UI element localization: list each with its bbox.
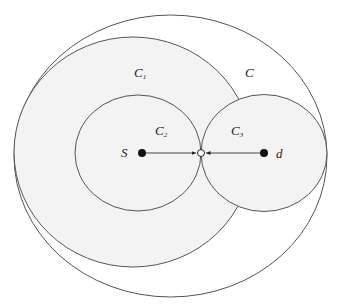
label-c2: C2 [155, 124, 167, 139]
label-d: d [276, 147, 283, 160]
circles-diagram [0, 0, 338, 308]
node-d [260, 149, 268, 157]
label-c3: C3 [231, 124, 243, 139]
label-c1: C1 [134, 66, 146, 81]
label-c: C [245, 66, 254, 79]
node-meet [198, 150, 205, 157]
diagram: C1 C C2 C3 S d [0, 0, 338, 308]
label-s: S [121, 146, 128, 159]
node-s [138, 149, 146, 157]
